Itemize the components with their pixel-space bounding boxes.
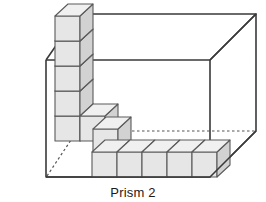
prism-figure: Prism 2 <box>0 0 266 202</box>
prism-diagram <box>0 0 266 202</box>
figure-caption: Prism 2 <box>0 185 266 200</box>
cubes-group <box>55 4 230 177</box>
